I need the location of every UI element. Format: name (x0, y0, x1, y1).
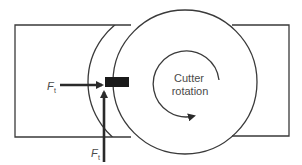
force-label-horizontal: F t (47, 80, 56, 94)
rotation-label-line1: Cutter (174, 72, 204, 84)
force-label-vertical: F t (91, 147, 100, 161)
cutter-force-diagram: Cutter rotation F t F t (0, 0, 302, 165)
rotation-label-line2: rotation (172, 85, 209, 97)
workpiece-outline (15, 25, 289, 137)
force-subscript: t (98, 154, 100, 161)
diagram-canvas: Cutter rotation F t F t (0, 0, 302, 165)
force-subscript: t (54, 87, 56, 94)
cutter-tooth (105, 77, 129, 87)
